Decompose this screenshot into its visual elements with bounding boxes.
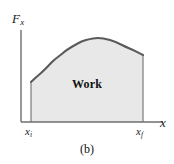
y-axis-label-subscript: x xyxy=(20,17,24,27)
figure-caption: (b) xyxy=(0,143,174,155)
x-axis-label-main: x xyxy=(160,115,166,130)
work-area-figure: Fx x xi xf Work (b) xyxy=(0,0,174,164)
tick-label-x-final-subscript: f xyxy=(141,130,143,139)
x-axis-label: x xyxy=(160,116,166,129)
y-axis-label-main: F xyxy=(12,11,20,26)
work-area-label: Work xyxy=(0,78,174,90)
tick-label-x-initial: xi xyxy=(25,126,32,137)
tick-label-x-initial-subscript: i xyxy=(30,130,32,139)
y-axis-label: Fx xyxy=(12,12,24,25)
tick-label-x-final: xf xyxy=(136,126,143,137)
